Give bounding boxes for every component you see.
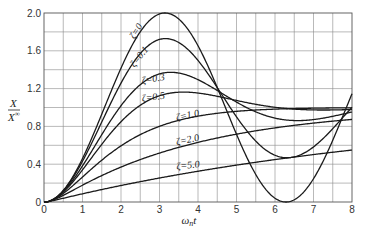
x-tick-label: 1 [80,204,86,215]
y-tick-label: 0 [35,197,41,208]
curve-label: ζ=0.5 [141,90,166,105]
y-axis-label: X X∞ [7,97,20,123]
y-tick-label: 0.8 [27,121,41,132]
step-response-chart: ζ=0ζ=0.1ζ=0.3ζ=0.5ζ=1.0ζ=2.0ζ=5.0 012345… [0,0,368,235]
x-tick-label: 2 [118,204,124,215]
y-axis-ticks: 00.40.81.21.62.0 [27,8,41,208]
x-tick-label: 7 [311,204,317,215]
y-axis-label-denominator: X∞ [7,110,20,123]
y-tick-label: 1.6 [27,45,41,56]
curve-labels: ζ=0ζ=0.1ζ=0.3ζ=0.5ζ=1.0ζ=2.0ζ=5.0 [127,21,200,173]
y-tick-label: 0.4 [27,159,41,170]
grid-lines [44,13,352,202]
x-axis-label: ωnt [182,214,198,228]
y-tick-label: 2.0 [27,8,41,19]
x-axis-ticks: 012345678 [41,204,355,215]
y-axis-label-numerator: X [9,97,18,109]
y-tick-label: 1.2 [27,83,41,94]
curve-label: ζ=0 [127,21,146,41]
curve-label: ζ=5.0 [176,158,201,173]
x-tick-label: 5 [234,204,240,215]
x-tick-label: 3 [157,204,163,215]
x-tick-label: 0 [41,204,47,215]
curve-label: ζ=0.3 [141,71,166,87]
x-tick-label: 6 [272,204,278,215]
x-tick-label: 8 [349,204,355,215]
